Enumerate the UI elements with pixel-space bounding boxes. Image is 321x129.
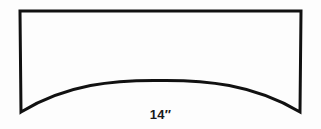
width-dimension-label: 14″ (0, 107, 321, 123)
figure-container: 14″ (0, 0, 321, 129)
